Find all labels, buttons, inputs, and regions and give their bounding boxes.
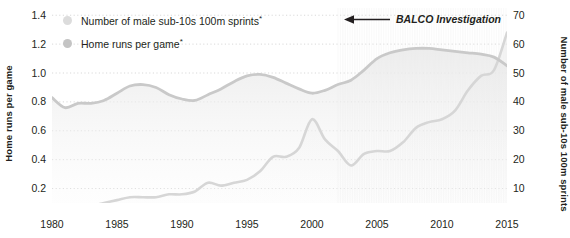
- y-axis-left-tick-label: 1.2: [6, 39, 46, 50]
- y-axis-right-tick-label: 40: [513, 96, 525, 107]
- x-axis-tick-label: 2010: [419, 219, 465, 230]
- legend-item[interactable]: Home runs per game*: [63, 32, 262, 55]
- x-axis-tick-label: 2015: [484, 219, 530, 230]
- y-axis-right-tick-label: 30: [513, 125, 525, 136]
- y-axis-right-tick-label: 10: [513, 183, 525, 194]
- y-axis-left-tick-label: 0.6: [6, 125, 46, 136]
- x-axis-tick-label: 1995: [224, 219, 270, 230]
- x-axis-tick-label: 2000: [289, 219, 335, 230]
- left-arrow-icon: [344, 14, 390, 25]
- y-axis-left-ticks: 1.41.21.00.80.60.40.2: [0, 0, 46, 238]
- legend-footnote-marker: *: [180, 36, 183, 45]
- y-axis-right-tick-label: 50: [513, 68, 525, 79]
- y-axis-left-tick-label: 1.4: [6, 10, 46, 21]
- y-axis-left-tick-label: 0.2: [6, 183, 46, 194]
- y-axis-right-tick-label: 70: [513, 10, 525, 21]
- y-axis-left-tick-label: 0.8: [6, 96, 46, 107]
- legend-item-label: Number of male sub-10s 100m sprints*: [81, 15, 262, 27]
- legend-item-label: Home runs per game*: [81, 38, 183, 50]
- x-axis-tick-label: 2005: [354, 219, 400, 230]
- y-axis-left-tick-label: 1.0: [6, 68, 46, 79]
- y-axis-left-tick-label: 0.4: [6, 154, 46, 165]
- x-axis-tick-label: 1980: [29, 219, 75, 230]
- y-axis-right-ticks: 70605040302010: [513, 0, 553, 238]
- y-axis-right-tick-label: 60: [513, 39, 525, 50]
- balco-annotation: BALCO Investigation: [344, 10, 501, 28]
- legend-item[interactable]: Number of male sub-10s 100m sprints*: [63, 9, 262, 32]
- legend-footnote-marker: *: [259, 13, 262, 22]
- chart-legend: Number of male sub-10s 100m sprints*Home…: [63, 9, 262, 55]
- y-axis-right-tick-label: 20: [513, 154, 525, 165]
- x-axis-tick-label: 1985: [94, 219, 140, 230]
- y-axis-right-title: Number of male sub-10s 100m sprints: [559, 37, 570, 187]
- balco-annotation-label: BALCO Investigation: [396, 13, 501, 25]
- legend-swatch-circle-icon: [63, 39, 72, 48]
- x-axis-ticks: 19801985199019952000200520102015: [0, 214, 565, 238]
- legend-swatch-circle-icon: [63, 16, 72, 25]
- x-axis-tick-label: 1990: [159, 219, 205, 230]
